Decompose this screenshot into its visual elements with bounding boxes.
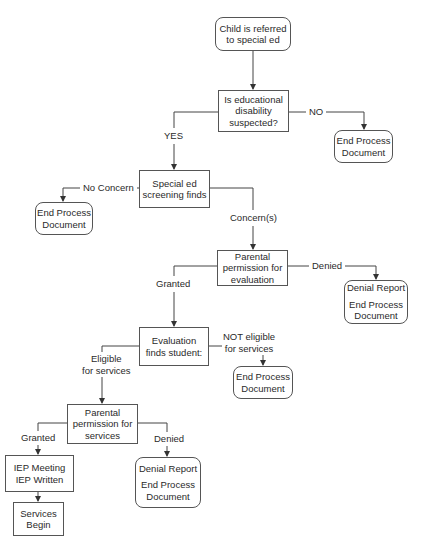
node-text: Begin bbox=[26, 519, 50, 531]
node-text: Document bbox=[241, 383, 284, 395]
node-text: Denial Report bbox=[347, 282, 405, 294]
node-text: Document bbox=[342, 147, 385, 159]
edge-label-line: Eligible bbox=[82, 353, 131, 365]
node-iep: IEP Meeting IEP Written bbox=[5, 455, 74, 492]
node-text: End Process bbox=[349, 299, 403, 311]
edge-label-eligible: Eligible for services bbox=[80, 352, 133, 377]
node-denial-evaluation: Denial Report End Process Document bbox=[344, 280, 408, 324]
edge-label-line: NOT eligible bbox=[223, 331, 275, 343]
node-text: IEP Written bbox=[16, 474, 64, 486]
edge-label-no: NO bbox=[306, 106, 326, 118]
node-text: Denial Report bbox=[139, 463, 197, 475]
edge-label-granted-evaluation: Granted bbox=[155, 276, 191, 292]
node-text: suspected? bbox=[229, 117, 278, 129]
node-text: finds student: bbox=[146, 347, 203, 359]
edge-label-line: for services bbox=[82, 365, 131, 377]
node-start-line-1: Child is referred bbox=[219, 23, 286, 35]
node-denial-services: Denial Report End Process Document bbox=[135, 457, 201, 508]
node-disability-question: Is educational disability suspected? bbox=[218, 90, 289, 132]
node-evaluation: Evaluation finds student: bbox=[139, 327, 209, 366]
node-text: permission for bbox=[223, 262, 283, 274]
edge-label-yes: YES bbox=[163, 128, 184, 144]
node-text: services bbox=[85, 430, 120, 442]
edge-label-granted-services: Granted bbox=[20, 431, 56, 445]
node-text: evaluation bbox=[231, 274, 274, 286]
node-text: End Process bbox=[236, 371, 290, 383]
node-text: Is educational bbox=[224, 94, 283, 106]
flowchart-canvas: Child is referred to special ed Is educa… bbox=[0, 0, 425, 550]
node-text: Special ed bbox=[152, 178, 196, 190]
node-end-no-concern: End Process Document bbox=[35, 202, 93, 235]
node-services-begin: Services Begin bbox=[13, 502, 64, 536]
node-text: End Process bbox=[37, 207, 91, 219]
node-permission-evaluation: Parental permission for evaluation bbox=[217, 250, 288, 286]
node-text: screening finds bbox=[143, 189, 207, 201]
node-text: Parental bbox=[235, 251, 270, 263]
edge-label-line: for services bbox=[223, 343, 275, 355]
node-text: End Process bbox=[141, 479, 195, 491]
node-text: Services bbox=[20, 508, 56, 520]
node-end-no-disability: End Process Document bbox=[334, 130, 393, 163]
edge-label-denied-evaluation: Denied bbox=[309, 260, 345, 272]
node-text: Document bbox=[354, 310, 397, 322]
node-text: disability bbox=[235, 105, 271, 117]
node-text: Document bbox=[42, 219, 85, 231]
node-text: End Process bbox=[337, 135, 391, 147]
edge-label-no-concern: No Concern bbox=[80, 182, 137, 194]
node-text: Evaluation bbox=[152, 335, 196, 347]
node-end-not-eligible: End Process Document bbox=[233, 366, 293, 399]
edge-label-not-eligible: NOT eligible for services bbox=[223, 331, 275, 354]
node-permission-services: Parental permission for services bbox=[67, 404, 138, 444]
node-text: permission for bbox=[73, 418, 133, 430]
node-screening: Special ed screening finds bbox=[139, 170, 210, 208]
node-start-line-2: to special ed bbox=[226, 34, 279, 46]
node-text: Document bbox=[146, 491, 189, 503]
node-text: Parental bbox=[85, 407, 120, 419]
node-start: Child is referred to special ed bbox=[215, 17, 291, 51]
node-text: IEP Meeting bbox=[14, 462, 66, 474]
edge-label-denied-services: Denied bbox=[153, 432, 185, 446]
edge-label-concerns: Concern(s) bbox=[229, 210, 278, 226]
